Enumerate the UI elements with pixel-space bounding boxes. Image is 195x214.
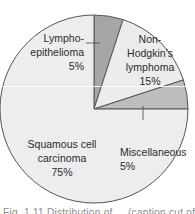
slice-label-line: Lympho- — [44, 32, 85, 44]
pie-chart: Lympho-epithelioma5%Non-Hodgkin'slymphom… — [0, 0, 195, 214]
slice-label-line: Non- — [139, 33, 162, 45]
slice-label-line: lymphoma — [126, 61, 175, 73]
slice-label-line: 5% — [120, 160, 135, 172]
slice-label-line: Miscellaneous — [120, 146, 187, 158]
slice-label-line: Hodgkin's — [127, 47, 173, 59]
scan-line-artifact — [0, 86, 195, 87]
slice-label-line: 75% — [51, 166, 72, 178]
slice-label-line: Squamous cell — [28, 138, 97, 150]
slice-label-line: carcinoma — [38, 152, 87, 164]
slice-label-line: epithelioma — [30, 46, 84, 58]
slice-label-line: 5% — [69, 60, 84, 72]
figure-caption: Fig. 1.11 Distribution of ... (caption c… — [3, 207, 195, 214]
